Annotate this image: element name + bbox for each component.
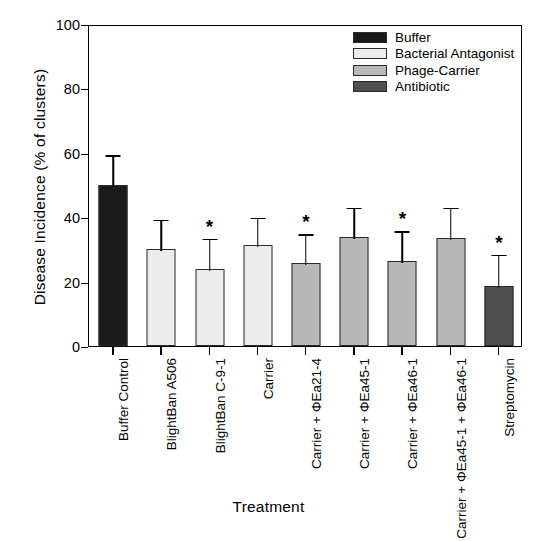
x-axis-tick-mark (160, 347, 161, 355)
x-axis-tick-mark (112, 347, 113, 355)
x-axis-tick-label: Carrier + ΦEa45-1 (358, 358, 372, 469)
x-axis-tick-label: Carrier (262, 358, 276, 399)
bar-group[interactable] (137, 26, 185, 346)
legend-color-swatch (353, 81, 387, 92)
significance-asterisk: * (206, 222, 213, 232)
legend-item-label: Phage-Carrier (395, 64, 480, 78)
x-axis-tick-mark (401, 347, 402, 355)
legend-color-swatch (353, 32, 387, 43)
legend-color-swatch (353, 48, 387, 59)
y-axis-tick-mark (81, 154, 88, 155)
y-axis-tick-mark (81, 347, 88, 348)
x-axis-tick-mark (209, 347, 210, 355)
bar-group[interactable] (234, 26, 282, 346)
legend-item-label: Buffer (395, 31, 431, 45)
error-bar-line (257, 218, 259, 247)
y-axis-tick-label: 20 (40, 276, 80, 291)
x-axis-tick-mark (257, 347, 258, 355)
error-bar-cap (250, 218, 265, 220)
bar[interactable] (147, 249, 176, 346)
error-bar-line (450, 208, 452, 241)
y-axis-tick-mark (81, 218, 88, 219)
bar-chart-figure: Disease Incidence (% of clusters) 020406… (0, 0, 537, 541)
bar-group[interactable]: * (282, 26, 330, 346)
error-bar-line (209, 239, 211, 272)
bar-group[interactable]: * (185, 26, 233, 346)
x-axis-tick-mark (498, 347, 499, 355)
bar[interactable] (195, 269, 224, 346)
error-bar-cap (491, 255, 506, 257)
x-axis-title: Treatment (0, 498, 537, 516)
significance-asterisk: * (302, 217, 309, 227)
legend-item-label: Bacterial Antagonist (395, 47, 514, 61)
error-bar-cap (154, 220, 169, 222)
y-axis-tick-label: 60 (40, 147, 80, 162)
error-bar-cap (347, 208, 362, 210)
chart-legend: BufferBacterial AntagonistPhage-CarrierA… (353, 29, 514, 95)
error-bar-line (305, 234, 307, 265)
legend-item[interactable]: Phage-Carrier (353, 62, 514, 79)
bar[interactable] (243, 245, 272, 346)
y-axis-tick-label: 100 (40, 18, 80, 33)
x-axis-tick-label: Carrier + ΦEa21-4 (310, 358, 324, 469)
x-axis-tick-label: Streptomycin (503, 358, 517, 437)
y-axis-tick-label: 40 (40, 211, 80, 226)
x-axis-tick-label: Buffer Control (117, 358, 131, 441)
bar[interactable] (340, 237, 369, 346)
error-bar-line (161, 220, 163, 251)
legend-color-swatch (353, 65, 387, 76)
error-bar-cap (202, 239, 217, 241)
legend-item[interactable]: Antibiotic (353, 79, 514, 96)
bar[interactable] (291, 263, 320, 346)
x-axis-tick-label: Carrier + ΦEa46-1 (406, 358, 420, 469)
bar[interactable] (484, 286, 513, 346)
x-axis-tick-label: BlightBan A506 (165, 358, 179, 450)
x-axis-tick-label: BlightBan C-9-1 (214, 358, 228, 453)
x-axis-tick-mark (305, 347, 306, 355)
y-axis-tick-mark (81, 25, 88, 26)
y-axis-tick-mark (81, 283, 88, 284)
y-axis-tick-label: 0 (40, 340, 80, 355)
error-bar-cap (443, 208, 458, 210)
bar[interactable] (99, 185, 128, 346)
error-bar-cap (395, 231, 410, 233)
significance-asterisk: * (399, 214, 406, 224)
legend-item[interactable]: Bacterial Antagonist (353, 46, 514, 63)
legend-item[interactable]: Buffer (353, 29, 514, 46)
x-axis-tick-mark (450, 347, 451, 355)
legend-item-label: Antibiotic (395, 80, 450, 94)
bar[interactable] (436, 238, 465, 346)
significance-asterisk: * (495, 238, 502, 248)
y-axis-tick-mark (81, 89, 88, 90)
error-bar-cap (298, 234, 313, 236)
error-bar-cap (106, 155, 121, 157)
error-bar-line (402, 231, 404, 263)
x-axis-tick-mark (353, 347, 354, 355)
y-axis-tick-labels: 020406080100 (30, 0, 80, 541)
bar-group[interactable] (89, 26, 137, 346)
error-bar-line (353, 208, 355, 239)
y-axis-tick-label: 80 (40, 82, 80, 97)
error-bar-line (498, 255, 500, 289)
error-bar-line (112, 155, 114, 187)
bar[interactable] (388, 261, 417, 346)
